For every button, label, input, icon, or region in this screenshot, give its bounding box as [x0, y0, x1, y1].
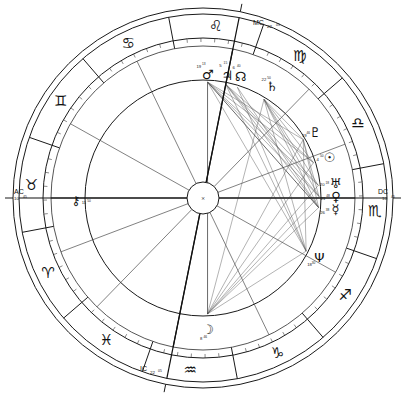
degree-tick	[353, 155, 357, 156]
aspect-pluto-neptune	[303, 140, 306, 252]
degree-tick	[150, 342, 153, 350]
degree-tick	[91, 310, 94, 313]
angle-degree-ac: 10	[14, 196, 19, 201]
planet-minute-pluto: 46	[307, 131, 311, 135]
planet-minute-chiron: 50	[87, 199, 91, 203]
planet-glyph-uranus: ♅	[329, 176, 341, 191]
sign-glyph-capricorn: ♑	[271, 344, 284, 362]
degree-tick	[294, 325, 296, 328]
sign-divider-cancer	[83, 59, 99, 77]
degree-tick	[228, 40, 229, 44]
chart-svg: ♈♉♊♋♌♍♎♏♐♑♒♓ ☽846Ψ1830☿2638♀2148♅2018☉45…	[0, 0, 406, 396]
sign-divider-libra	[324, 78, 342, 94]
aspect-jupiter-neptune	[226, 84, 306, 251]
planet-minute-neptune: 30	[312, 261, 316, 265]
degree-tick	[71, 108, 74, 110]
sign-divider-capricorn	[307, 319, 323, 337]
sign-glyph-leo: ♌	[209, 17, 222, 35]
degree-tick	[332, 286, 335, 288]
degree-tick	[283, 332, 285, 335]
degree-tick	[312, 83, 315, 86]
axis-mc	[167, 214, 200, 379]
degree-tick	[177, 352, 178, 356]
degree-tick	[302, 74, 305, 77]
aspect-moon-neptune	[208, 251, 307, 314]
degree-tick	[102, 319, 105, 322]
degree-tick	[324, 297, 327, 300]
sign-glyph-virgo: ♍	[293, 47, 306, 65]
aspect-saturn-neptune	[264, 99, 306, 251]
sign-glyph-aquarius: ♒	[184, 361, 197, 379]
planet-glyph-mars: ♂	[202, 67, 214, 82]
sign-glyph-cancer: ♋	[122, 34, 135, 52]
sign-glyph-libra: ♎	[351, 114, 364, 132]
sign-divider-taurus	[22, 228, 46, 232]
degree-tick	[357, 223, 361, 224]
planet-minute-northnode: 40	[237, 64, 241, 68]
degree-tick	[347, 248, 355, 251]
degree-tick	[137, 340, 139, 344]
degree-tick	[121, 60, 123, 63]
aspect-mars-mercury	[208, 82, 319, 208]
degree-tick	[160, 44, 161, 48]
degree-tick	[146, 48, 147, 52]
degree-tick	[231, 347, 232, 355]
aspect-moon-sun	[208, 163, 314, 314]
house-cusp-3	[137, 61, 196, 183]
house-cusp-9	[210, 212, 269, 334]
degree-tick	[79, 97, 82, 100]
angle-degree-dc: 10	[382, 196, 387, 201]
planet-minute-sun: 50	[320, 154, 324, 158]
planet-degree-saturn: 22	[262, 77, 267, 82]
degree-tick	[88, 86, 91, 89]
planet-minute-mercury: 38	[326, 208, 330, 212]
sign-divider-aquarius	[233, 355, 237, 379]
aspect-saturn-venus	[264, 99, 319, 196]
planet-glyph-northnode: ☊	[235, 69, 247, 84]
aspect-northnode-mercury	[237, 87, 318, 207]
aspect-jupiter-sun	[226, 84, 314, 162]
house-cusp-2	[70, 124, 189, 190]
degree-tick	[59, 266, 63, 268]
degree-tick	[352, 168, 360, 169]
planet-degree-mars: 19	[197, 64, 202, 69]
angle-minute-ac: 45	[23, 195, 27, 199]
sign-glyph-scorpio: ♏	[368, 202, 382, 220]
house-cusp-12	[61, 204, 188, 252]
planet-minute-moon: 46	[203, 335, 207, 339]
sign-divider-gemini	[29, 137, 52, 145]
degree-tick	[241, 43, 242, 47]
angle-minute-ic: 05	[158, 369, 162, 373]
planet-degree-mercury: 26	[320, 210, 325, 215]
degree-tick	[345, 262, 349, 264]
degree-tick	[173, 41, 174, 49]
angle-label-mc: MC	[253, 19, 264, 26]
degree-tick	[65, 278, 68, 280]
planet-minute-saturn: 50	[267, 76, 271, 80]
degree-tick	[330, 105, 333, 107]
degree-tick	[48, 159, 52, 160]
sign-divider-sagittarius	[354, 251, 377, 259]
degree-tick	[344, 128, 348, 130]
planet-glyph-neptune: Ψ	[314, 250, 324, 265]
degree-tick	[337, 116, 340, 118]
degree-tick	[73, 289, 76, 291]
degree-tick	[164, 349, 165, 353]
degree-tick	[63, 120, 66, 122]
sign-divider-leo	[169, 17, 173, 41]
degree-tick	[315, 307, 318, 310]
angle-minute-mc: 05	[276, 23, 280, 27]
axis-ic	[206, 18, 239, 183]
planet-degree-uranus: 20	[320, 182, 325, 187]
planet-degree-venus: 21	[321, 196, 326, 201]
planet-minute-jupiter: 15	[224, 61, 228, 65]
planet-minute-mars: 13	[202, 62, 206, 66]
sign-glyph-taurus: ♉	[25, 176, 38, 194]
degree-tick	[125, 334, 127, 337]
planet-glyph-pluto: ♇	[309, 125, 321, 140]
center-mark: ×	[201, 195, 205, 201]
aspect-mars-venus	[208, 82, 319, 196]
aspect-saturn-mercury	[264, 99, 319, 207]
planet-glyph-chiron: ⚷	[71, 193, 81, 208]
house-cusp-11	[97, 209, 192, 306]
